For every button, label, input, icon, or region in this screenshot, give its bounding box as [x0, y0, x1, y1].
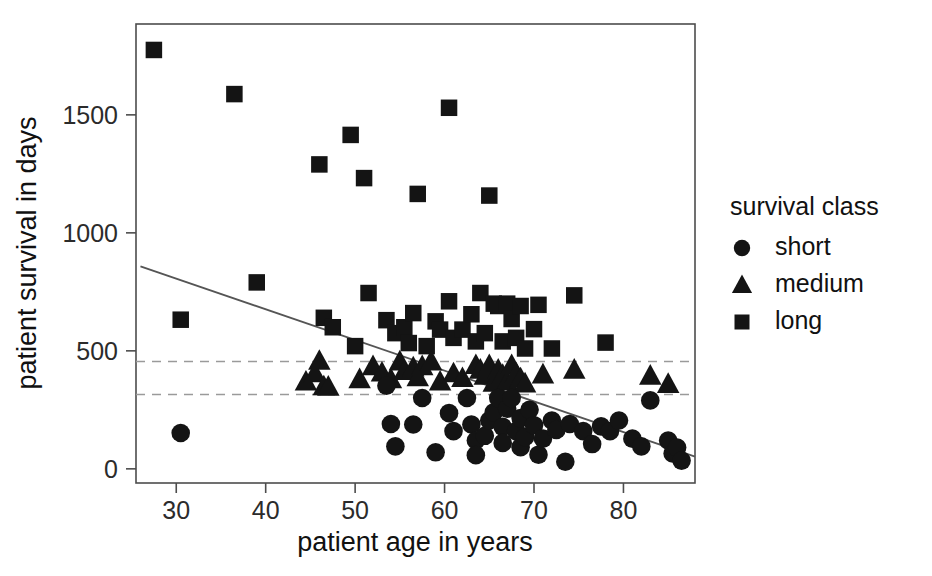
data-point-square [441, 100, 458, 117]
data-point-square [566, 287, 583, 304]
data-point-circle [440, 404, 459, 423]
data-point-square [517, 340, 534, 357]
data-point-square [526, 321, 543, 338]
legend-marker-circle-icon [734, 240, 750, 256]
y-tick-label: 1500 [62, 101, 118, 129]
data-point-circle [458, 389, 477, 408]
data-point-square [441, 293, 458, 310]
data-point-square [463, 306, 480, 323]
data-point-square [530, 297, 547, 314]
y-tick-label: 0 [104, 455, 118, 483]
data-point-square [597, 334, 614, 351]
chart-canvas: 304050607080 050010001500 patient age in… [0, 0, 932, 576]
data-point-square [248, 274, 265, 291]
y-axis-title: patient survival in days [12, 116, 42, 389]
data-point-square [146, 42, 163, 59]
data-point-circle [610, 411, 629, 430]
legend-marker-square-icon [735, 315, 750, 330]
legend-label: medium [775, 269, 864, 297]
data-point-circle [529, 445, 548, 464]
data-point-square [226, 86, 243, 103]
data-point-circle [404, 415, 423, 434]
data-point-circle [382, 415, 401, 434]
data-point-square [347, 338, 364, 355]
data-point-square [325, 319, 342, 336]
data-point-circle [171, 424, 190, 443]
data-point-circle [502, 389, 521, 408]
x-tick-label: 50 [341, 496, 369, 524]
data-point-circle [426, 443, 445, 462]
data-point-square [311, 156, 328, 173]
x-axis-title: patient age in years [297, 527, 533, 557]
data-point-square [360, 285, 377, 302]
data-point-square [544, 340, 561, 357]
data-point-square [356, 170, 373, 187]
data-point-circle [444, 422, 463, 441]
data-point-square [172, 311, 189, 328]
data-point-circle [632, 437, 651, 456]
data-point-square [401, 335, 418, 352]
data-point-square [477, 325, 494, 342]
data-point-square [405, 305, 422, 322]
legend-label: short [775, 232, 831, 260]
data-point-square [481, 187, 498, 204]
data-point-circle [413, 389, 432, 408]
data-point-circle [583, 435, 602, 454]
data-point-circle [672, 451, 691, 470]
data-point-square [418, 338, 435, 355]
data-point-circle [467, 446, 486, 465]
legend-title: survival class [730, 192, 879, 220]
x-tick-label: 40 [252, 496, 280, 524]
x-tick-label: 30 [162, 496, 190, 524]
legend-label: long [775, 306, 822, 334]
y-tick-label: 500 [76, 337, 118, 365]
scatter-plot-figure: 304050607080 050010001500 patient age in… [0, 0, 932, 576]
data-point-circle [386, 437, 405, 456]
data-point-square [512, 298, 529, 315]
data-point-square [396, 319, 413, 336]
x-tick-label: 60 [431, 496, 459, 524]
x-tick-label: 80 [610, 496, 638, 524]
y-tick-label: 1000 [62, 219, 118, 247]
x-tick-label: 70 [520, 496, 548, 524]
data-point-circle [641, 391, 660, 410]
data-point-circle [377, 376, 396, 395]
data-point-square [342, 127, 359, 143]
data-point-square [409, 186, 426, 203]
data-point-circle [556, 452, 575, 471]
